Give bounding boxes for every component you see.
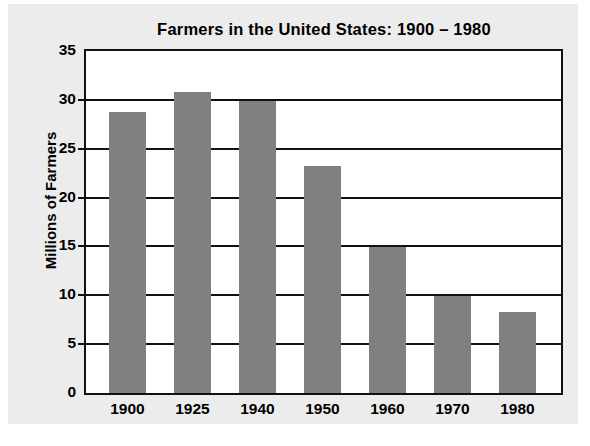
x-tick-label: 1980 xyxy=(488,400,548,418)
x-tick-label: 1925 xyxy=(163,400,223,418)
plot-inner xyxy=(86,51,561,393)
x-tick-label: 1960 xyxy=(358,400,418,418)
y-tick-label: 10 xyxy=(40,285,76,303)
y-tick-label: 30 xyxy=(40,90,76,108)
y-tick-label: 5 xyxy=(40,334,76,352)
page-title: Farmers in the United States: 1900 – 198… xyxy=(84,20,564,39)
y-tick-label: 15 xyxy=(40,236,76,254)
bar xyxy=(369,247,406,393)
bar xyxy=(174,92,211,393)
bar xyxy=(239,101,276,393)
plot-area xyxy=(84,49,563,395)
bar xyxy=(434,296,471,393)
y-tick-label: 0 xyxy=(40,383,76,401)
bar xyxy=(499,312,536,393)
x-tick-label: 1900 xyxy=(98,400,158,418)
y-tick-label: 20 xyxy=(40,188,76,206)
bar xyxy=(109,112,146,393)
gridline xyxy=(86,99,561,101)
x-tick-label: 1950 xyxy=(293,400,353,418)
x-tick-label: 1970 xyxy=(423,400,483,418)
y-tick-label: 35 xyxy=(40,41,76,59)
gridline xyxy=(86,148,561,150)
y-tick-label: 25 xyxy=(40,139,76,157)
bar xyxy=(304,166,341,393)
x-tick-label: 1940 xyxy=(228,400,288,418)
chart-figure: Farmers in the United States: 1900 – 198… xyxy=(0,0,590,446)
